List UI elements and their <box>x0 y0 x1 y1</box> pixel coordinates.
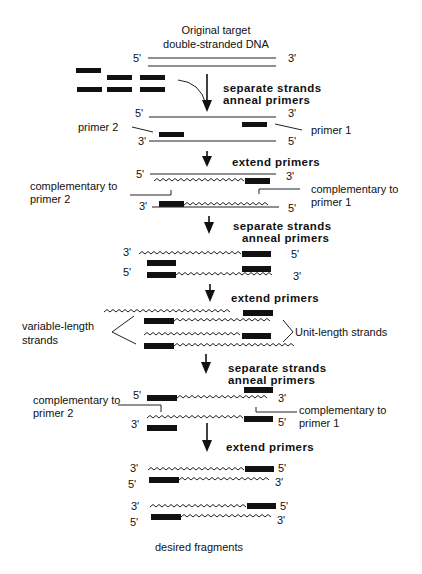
variable-length-label-1: variable-length <box>22 320 94 332</box>
annealed-stage: 5' 3' primer 1 primer 2 3' 5' <box>78 107 351 147</box>
svg-text:3': 3' <box>139 200 147 212</box>
svg-text:3': 3' <box>288 107 296 119</box>
step-extend-1: extend primers <box>232 156 320 168</box>
svg-text:5': 5' <box>130 516 138 528</box>
comp2-primer1-label-1: complementary to <box>299 404 386 416</box>
arrow-step-1 <box>202 74 212 112</box>
svg-text:3': 3' <box>131 500 139 512</box>
svg-text:5': 5' <box>288 202 296 214</box>
comp2-primer2-label-2: primer 2 <box>33 407 73 419</box>
step-separate-2-line2: anneal primers <box>242 232 329 244</box>
primer-1-label: primer 1 <box>311 124 351 136</box>
step-separate-3-line2: anneal primers <box>228 374 315 386</box>
comp-primer1-label-2: primer 1 <box>311 196 351 208</box>
variable-length-label-2: strands <box>22 334 59 346</box>
svg-text:3': 3' <box>277 514 285 526</box>
comp-primer2-label-1: complementary to <box>30 180 117 192</box>
arrow-step-6 <box>202 423 212 452</box>
annealed-stage-2: 3' 5' 5' 3' <box>123 246 301 282</box>
unit-length-bracket <box>283 320 293 342</box>
comp2-primer2-label-1: complementary to <box>33 394 120 406</box>
pcr-diagram: Original target double-stranded DNA 5' 3… <box>0 0 422 574</box>
svg-text:3': 3' <box>123 246 131 258</box>
svg-text:5': 5' <box>128 478 136 490</box>
svg-text:3': 3' <box>293 270 301 282</box>
svg-text:3': 3' <box>286 170 294 182</box>
arrow-step-3 <box>204 216 214 234</box>
annealed-stage-3: 5' 3' complementary to primer 2 compleme… <box>33 387 386 431</box>
primer-curve-arrow <box>178 80 206 104</box>
five-prime-label: 5' <box>133 52 141 64</box>
unit-length-label: Unit-length strands <box>295 326 388 338</box>
step-extend-2: extend primers <box>231 292 319 304</box>
primer-1-block <box>242 122 267 127</box>
comp-primer2-label-2: primer 2 <box>30 193 70 205</box>
primer-2-block <box>159 132 184 137</box>
svg-text:5': 5' <box>280 500 288 512</box>
step-separate-1-line2: anneal primers <box>223 94 310 106</box>
svg-text:3': 3' <box>275 476 283 488</box>
svg-text:5': 5' <box>135 107 143 119</box>
svg-text:3': 3' <box>138 135 146 147</box>
comp2-primer1-label-2: primer 1 <box>299 417 339 429</box>
arrow-step-4 <box>205 284 215 302</box>
variable-length-bracket <box>112 316 136 344</box>
svg-text:3': 3' <box>130 462 138 474</box>
comp-primer1-label-1: complementary to <box>311 183 398 195</box>
three-prime-label: 3' <box>288 52 296 64</box>
arrow-step-2 <box>202 151 212 167</box>
desired-fragments: 3' 5' 5' 3' 3' 5' 5' 3' <box>128 462 288 528</box>
svg-text:5': 5' <box>278 416 286 428</box>
primer-pool <box>76 68 206 104</box>
original-dsdna: 5' 3' <box>133 52 296 66</box>
svg-text:5': 5' <box>291 248 299 260</box>
title-line-1: Original target <box>181 24 250 36</box>
step-extend-3: extend primers <box>226 441 314 453</box>
svg-text:5': 5' <box>133 389 141 401</box>
svg-text:5': 5' <box>123 266 131 278</box>
primer-2-label: primer 2 <box>78 121 118 133</box>
step-separate-1-line1: separate strands <box>223 82 321 94</box>
step-separate-3-line1: separate strands <box>228 362 326 374</box>
svg-text:5': 5' <box>278 462 286 474</box>
step-separate-2-line1: separate strands <box>233 220 331 232</box>
arrow-step-5 <box>201 354 211 374</box>
svg-text:5': 5' <box>136 168 144 180</box>
svg-text:3': 3' <box>278 392 286 404</box>
extended-stage-2: variable-length strands Unit-length stra… <box>22 310 388 350</box>
desired-fragments-label: desired fragments <box>155 541 244 553</box>
svg-text:5': 5' <box>288 135 296 147</box>
extended-stage-1: 5' 3' complementary to primer 2 compleme… <box>30 168 398 214</box>
title-line-2: double-stranded DNA <box>163 38 269 50</box>
svg-text:3': 3' <box>131 418 139 430</box>
